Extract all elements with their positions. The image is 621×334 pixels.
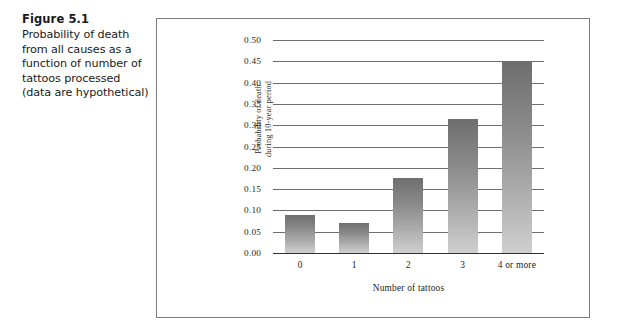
y-axis-tick-label: 0.05: [231, 227, 261, 237]
bar-group: 2: [381, 40, 435, 253]
y-axis-tick-label: 0.45: [231, 56, 261, 66]
bar: [502, 61, 532, 253]
plot-area: Probability of death during 10-year peri…: [157, 19, 589, 317]
bar: [339, 223, 369, 253]
bar: [285, 215, 315, 253]
y-axis-tick-label: 0.10: [231, 205, 261, 215]
y-axis-tick-label: 0.20: [231, 163, 261, 173]
bar-group: 1: [327, 40, 381, 253]
y-axis-tick-label: 0.30: [231, 120, 261, 130]
figure-caption-text: Probability of death from all causes as …: [22, 28, 150, 101]
bar-group: 3: [436, 40, 490, 253]
y-axis-tick-label: 0.40: [231, 78, 261, 88]
y-axis-tick-label: 0.00: [231, 248, 261, 258]
figure-caption-block: Figure 5.1 Probability of death from all…: [22, 12, 150, 101]
chart-frame: Probability of death during 10-year peri…: [156, 18, 590, 318]
bar-group: 4 or more: [490, 40, 544, 253]
bar: [393, 178, 423, 253]
x-axis-tick-label: 1: [352, 260, 357, 270]
figure-number: Figure 5.1: [22, 12, 150, 26]
bars-area: 01234 or more: [273, 40, 544, 253]
x-axis-tick-label: 4 or more: [498, 260, 536, 270]
x-axis-tick-label: 2: [406, 260, 411, 270]
y-axis-tick-label: 0.25: [231, 142, 261, 152]
bar-group: 0: [273, 40, 327, 253]
x-axis-tick-label: 0: [298, 260, 303, 270]
x-axis-tick-label: 3: [460, 260, 465, 270]
x-axis-baseline: [273, 253, 544, 254]
y-axis-tick-label: 0.50: [231, 35, 261, 45]
y-axis-tick-label: 0.35: [231, 99, 261, 109]
x-axis-title: Number of tattoos: [273, 283, 544, 293]
y-axis-tick-label: 0.15: [231, 184, 261, 194]
bar: [448, 119, 478, 253]
